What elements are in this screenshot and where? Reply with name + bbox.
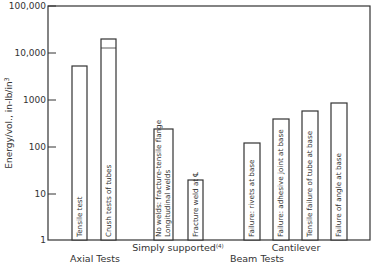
- bar-label-rivets: Failure: rivets at base: [247, 159, 256, 237]
- group-beam-tests: Beam Tests: [230, 253, 284, 264]
- y-tick-1000: 1000: [23, 95, 46, 105]
- energy-bar-chart: 1 10 100 1000 10,000 100,000 Energy/vol.…: [0, 0, 376, 267]
- bar-label-tensile-tube: Tensile failure of tube at base: [305, 130, 314, 238]
- bar-label-crush-tests: Crush tests of tubes: [104, 164, 113, 237]
- y-tick-10: 10: [35, 189, 47, 199]
- y-tick-100000: 100,000: [9, 1, 46, 11]
- bar-label-tensile-test: Tensile test: [75, 196, 84, 238]
- y-axis-title: Energy/vol., in-lb/in3: [3, 77, 14, 169]
- group-cantilever: Cantilever: [272, 242, 321, 253]
- y-tick-100: 100: [29, 142, 46, 152]
- group-labels: Axial Tests Simply supported(4) Cantilev…: [70, 242, 320, 264]
- bar-label-angle: Failure of angle at base: [334, 152, 343, 237]
- group-simply-supported: Simply supported(4): [132, 242, 223, 253]
- plot-frame: [48, 6, 370, 240]
- y-tick-10000: 10,000: [15, 48, 47, 58]
- bar-label-no-welds: No welds: fracture-tensile flange: [154, 119, 163, 237]
- bar-label-adhesive: Failure: adhesive joint at base: [276, 129, 285, 237]
- group-axial-tests: Axial Tests: [70, 253, 120, 264]
- bar-label-fracture-weld: Fracture weld at ℄: [191, 172, 200, 237]
- y-tick-1: 1: [40, 235, 46, 245]
- bar-label-longitudinal-welds: Longitudinal welds: [163, 170, 172, 237]
